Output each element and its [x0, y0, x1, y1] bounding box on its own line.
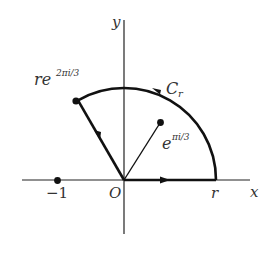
y-axis-label: y	[111, 13, 121, 31]
arrow-real-segment-icon	[160, 177, 170, 184]
ray-pi-over-3	[124, 123, 160, 180]
arrow-ray-icon	[94, 130, 101, 140]
minus-one-label: −1	[46, 184, 68, 202]
contour-segment-ray	[78, 100, 124, 180]
apex-label-base: re	[34, 70, 51, 89]
point-minus-one	[54, 177, 61, 184]
x-axis-label: x	[250, 183, 259, 201]
contour-label-subscript: r	[178, 88, 184, 99]
origin-label: O	[109, 184, 121, 202]
r-label: r	[211, 184, 219, 202]
point-pi-over-3	[157, 119, 164, 126]
apex-label-exponent: 2πi/3	[55, 68, 80, 78]
pi-over-3-label-exponent: πi/3	[171, 132, 190, 142]
point-apex	[72, 97, 79, 104]
pi-over-3-label-base: e	[162, 134, 171, 153]
contour-diagram: y x O −1 r re 2πi/3 e πi/3 C r	[0, 0, 274, 258]
contour-label: C	[166, 79, 178, 98]
